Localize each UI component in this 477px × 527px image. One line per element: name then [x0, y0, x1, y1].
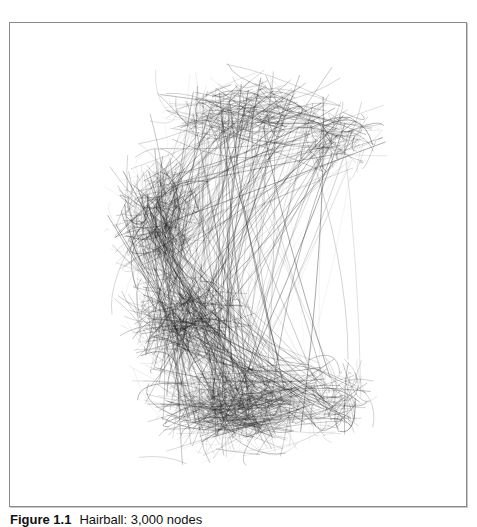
figure-caption: Figure 1.1Hairball: 3,000 nodes [10, 512, 202, 527]
figure-caption-text: Hairball: 3,000 nodes [79, 512, 202, 527]
hairball-network-graph [10, 23, 466, 506]
figure-frame [9, 22, 467, 507]
figure-label: Figure 1.1 [10, 512, 71, 527]
